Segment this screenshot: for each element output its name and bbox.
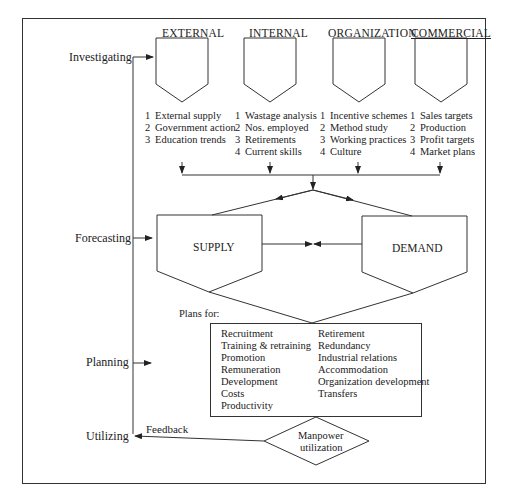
plan-item: Promotion [221, 352, 311, 364]
header-commercial: COMMERCIAL [411, 27, 491, 39]
plan-item: Development [221, 376, 311, 388]
demand-shape [362, 216, 467, 293]
list-item: 3Working practices [320, 134, 407, 146]
plan-item: Retirement [318, 328, 429, 340]
plan-item: Industrial relations [318, 352, 429, 364]
list-item: 2Nos. employed [235, 122, 317, 134]
stage-utilizing: Utilizing [86, 430, 129, 442]
pentagon-commercial [415, 38, 467, 102]
list-item: 4Market plans [410, 146, 475, 158]
plan-item: Remuneration [221, 364, 311, 376]
list-item: 3Retirements [235, 134, 317, 146]
plan-item: Productivity [221, 400, 311, 412]
plan-item: Redundancy [318, 340, 429, 352]
list-item: 1External supply [145, 110, 236, 122]
plan-item: Training & retraining [221, 340, 311, 352]
demand-label: DEMAND [392, 242, 442, 254]
supply-label: SUPPLY [193, 241, 235, 253]
utilization-line2: utilization [300, 442, 343, 454]
pentagon-organization [333, 38, 385, 102]
list-item: 4Current skills [235, 146, 317, 158]
list-item: 1Sales targets [410, 110, 475, 122]
list-item: 3Profit targets [410, 134, 475, 146]
header-internal: INTERNAL [249, 27, 308, 39]
list-organization: 1Incentive schemes 2Method study 3Workin… [320, 110, 407, 158]
list-commercial: 1Sales targets 2Production 3Profit targe… [410, 110, 475, 158]
list-item: 4Culture [320, 146, 407, 158]
stage-investigating: Investigating [69, 51, 132, 63]
stage-planning: Planning [86, 356, 129, 368]
header-organization: ORGANIZATION [328, 27, 417, 39]
plans-right-column: Retirement Redundancy Industrial relatio… [318, 328, 429, 400]
list-item: 2Production [410, 122, 475, 134]
list-item: 1Wastage analysis [235, 110, 317, 122]
pentagon-external [156, 38, 208, 102]
list-item: 1Incentive schemes [320, 110, 407, 122]
supply-shape [157, 215, 262, 292]
plan-item: Costs [221, 388, 311, 400]
list-internal: 1Wastage analysis 2Nos. employed 3Retire… [235, 110, 317, 158]
plan-item: Recruitment [221, 328, 311, 340]
feedback-label: Feedback [146, 423, 188, 435]
list-item: 2Method study [320, 122, 407, 134]
plan-item: Accommodation [318, 364, 429, 376]
list-external: 1External supply 2Government action 3Edu… [145, 110, 236, 146]
pentagon-internal [244, 38, 296, 102]
plan-item: Organization development [318, 376, 429, 388]
plans-left-column: Recruitment Training & retraining Promot… [221, 328, 311, 412]
list-item: 3Education trends [145, 134, 236, 146]
stage-forecasting: Forecasting [75, 232, 131, 244]
list-item: 2Government action [145, 122, 236, 134]
utilization-line1: Manpower [298, 430, 344, 442]
plan-item: Transfers [318, 388, 429, 400]
header-external: EXTERNAL [162, 27, 224, 39]
plans-label: Plans for: [179, 308, 220, 320]
